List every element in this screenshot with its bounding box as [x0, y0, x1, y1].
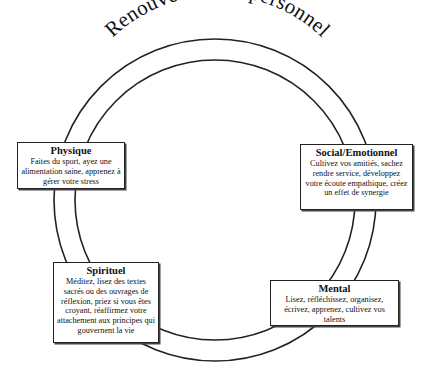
box-body-social: Cultivez vos amitiés, sachez rendre serv… — [304, 159, 409, 198]
box-spirituel: Spirituel Méditez, lisez des textes sacr… — [53, 262, 159, 343]
box-social-emotionnel: Social/Emotionnel Cultivez vos amitiés, … — [300, 144, 413, 210]
box-title-physique: Physique — [21, 145, 121, 157]
diagram-title: Renouvellement personnel — [100, 0, 335, 42]
box-mental: Mental Lisez, réfléchissez, organisez, é… — [270, 280, 399, 326]
box-body-spirituel: Méditez, lisez des textes sacrés ou des … — [57, 277, 155, 335]
box-physique: Physique Faites du sport, ayez une alime… — [17, 142, 125, 189]
box-title-social: Social/Emotionnel — [304, 147, 409, 159]
box-title-mental: Mental — [274, 283, 395, 295]
box-body-mental: Lisez, réfléchissez, organisez, écrivez,… — [274, 295, 395, 324]
box-body-physique: Faites du sport, ayez une alimentation s… — [21, 157, 121, 186]
box-title-spirituel: Spirituel — [57, 265, 155, 277]
